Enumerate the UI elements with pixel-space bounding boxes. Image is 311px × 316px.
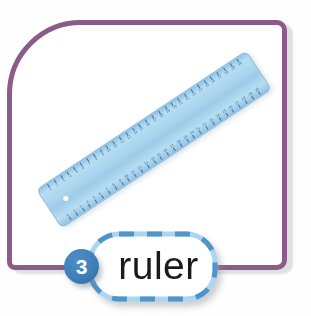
- ruler-unit-number: 21: [178, 100, 183, 105]
- ruler-tick: [108, 191, 111, 195]
- ruler-unit-number: 20: [172, 105, 177, 110]
- ruler-unit-number: 1: [49, 187, 53, 191]
- ruler-tick: [101, 195, 104, 199]
- ruler-tick: [205, 126, 208, 130]
- ruler-tick: [88, 204, 91, 208]
- ruler-unit-number: 18: [159, 113, 164, 118]
- ruler-tick: [244, 100, 247, 104]
- ruler-tick: [258, 91, 261, 95]
- ruler-unit-number: 9: [101, 153, 105, 157]
- ruler-unit-number: 15: [139, 126, 144, 131]
- ruler-hanging-hole: [61, 194, 69, 202]
- ruler-tick: [121, 182, 124, 186]
- ruler-unit-number: 7: [88, 161, 92, 165]
- ruler-tick: [147, 165, 150, 169]
- ruler-unit-number: 24: [198, 87, 203, 92]
- caption-word: ruler: [99, 243, 218, 287]
- ruler-unit-number: 8: [95, 157, 99, 161]
- ruler-unit-number: 28: [224, 70, 229, 75]
- ruler-tick: [192, 135, 195, 139]
- ruler-tick: [166, 152, 169, 156]
- ruler-tick: [199, 130, 202, 134]
- caption-pill: ruler: [87, 231, 218, 302]
- ruler-unit-number: 16: [146, 122, 151, 127]
- ruler-unit-number: 26: [211, 79, 216, 84]
- ruler-tick: [225, 113, 228, 117]
- ruler-tick: [134, 173, 137, 177]
- ruler-unit-number: 6: [82, 166, 86, 170]
- ruler-unit-number: 23: [191, 92, 196, 97]
- ruler-unit-number: 30: [237, 62, 242, 67]
- ruler-unit-number: 10: [107, 148, 112, 153]
- ruler-tick: [69, 216, 72, 220]
- ruler-tick: [186, 139, 189, 143]
- item-number-badge: 3: [64, 249, 99, 284]
- ruler-unit-number: 27: [218, 75, 223, 80]
- ruler-tick: [231, 109, 234, 113]
- ruler-tick: [179, 143, 182, 147]
- ruler-unit-number: 29: [231, 66, 236, 71]
- ruler-tick: [82, 208, 85, 212]
- ruler-unit-number: 12: [120, 139, 125, 144]
- ruler-tick: [251, 96, 254, 100]
- ruler-unit-number: 19: [165, 109, 170, 114]
- ruler-unit-number: 4: [69, 174, 73, 178]
- ruler-tick: [140, 169, 143, 173]
- picture-dictionary-card: 1234567891011121314151617181920212223242…: [0, 0, 311, 316]
- ruler-unit-number: 25: [204, 83, 209, 88]
- ruler-tick: [127, 178, 130, 182]
- ruler-tick: [114, 186, 117, 190]
- ruler-tick: [238, 104, 241, 108]
- ruler-unit-number: 22: [185, 96, 190, 101]
- ruler-tick: [75, 212, 78, 216]
- ruler-unit-number: 5: [75, 170, 79, 174]
- ruler-tick: [95, 199, 98, 203]
- ruler-tick: [218, 117, 221, 121]
- ruler-unit-number: 17: [152, 118, 157, 123]
- item-number-text: 3: [76, 255, 88, 279]
- ruler-unit-number: 3: [62, 179, 66, 183]
- ruler-tick: [160, 156, 163, 160]
- ruler-tick: [153, 160, 156, 164]
- ruler-unit-number: 13: [126, 135, 131, 140]
- ruler-tick: [212, 122, 215, 126]
- ruler-unit-number: 14: [133, 131, 138, 136]
- ruler-unit-number: 11: [113, 144, 118, 149]
- ruler-unit-number: 2: [56, 183, 60, 187]
- ruler-tick: [173, 147, 176, 151]
